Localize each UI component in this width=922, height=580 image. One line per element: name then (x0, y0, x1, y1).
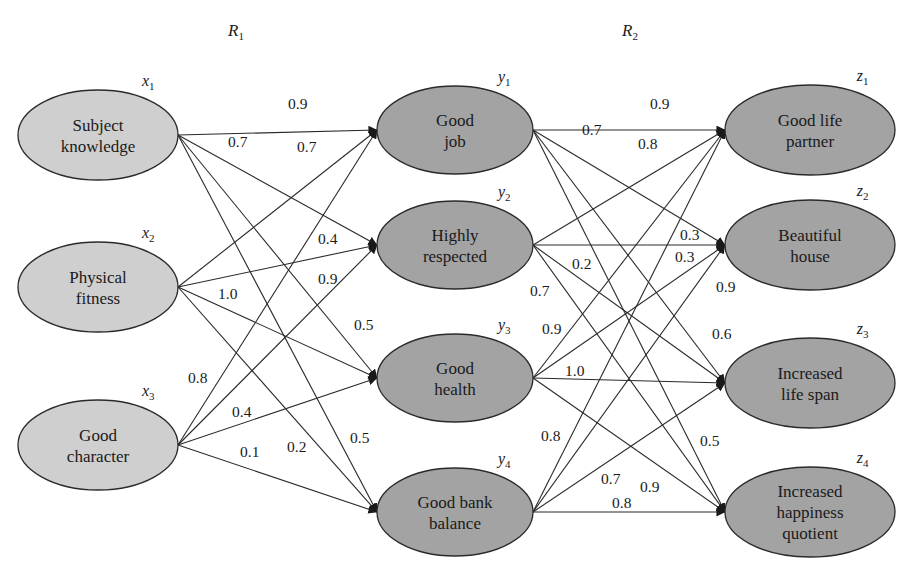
node-variable: x1 (141, 72, 155, 92)
node-label: job (443, 132, 466, 151)
node-label: Good (436, 359, 474, 378)
relation-label-R2: R2 (621, 21, 638, 42)
weight-label-x3-y1: 0.8 (188, 369, 208, 386)
node-label: Subject (73, 116, 124, 135)
node-variable: x3 (141, 382, 155, 402)
node-ellipse (377, 86, 533, 174)
node-label: knowledge (61, 137, 136, 156)
edge-x1-y3 (178, 135, 377, 378)
weight-label-x2-y3: 1.0 (218, 285, 238, 302)
node-ellipse (18, 400, 178, 490)
node-label: Physical (69, 268, 127, 287)
node-label: house (790, 247, 830, 266)
weight-label-y2-z2: 0.3 (680, 226, 700, 243)
weight-label-y4-z2: 0.9 (716, 278, 736, 295)
node-ellipse (377, 201, 533, 289)
weight-label: 0.6 (712, 325, 732, 342)
weight-label-y2-z1: 0.8 (638, 135, 658, 152)
nodes-layer: Subjectknowledgex1Physicalfitnessx2Goodc… (18, 67, 895, 557)
weight-label-y2-z4: 0.7 (530, 282, 550, 299)
node-x3: Goodcharacterx3 (18, 382, 178, 490)
node-label: respected (423, 247, 488, 266)
node-variable: z3 (856, 320, 869, 340)
node-ellipse (377, 334, 533, 422)
node-label: quotient (782, 524, 838, 543)
node-label: happiness (776, 503, 843, 522)
node-label: Good (436, 111, 474, 130)
weight-label-y3-z4: 0.5 (700, 432, 720, 449)
node-label: Increased (777, 482, 843, 501)
weight-label: 0.5 (350, 429, 370, 446)
node-ellipse (18, 90, 178, 180)
edge-x1-y2 (178, 135, 377, 245)
relation-labels-layer: R1R2 (227, 21, 638, 42)
node-variable: y1 (496, 68, 511, 88)
node-y4: Good bankbalancey4 (377, 450, 533, 556)
node-label: Highly (431, 226, 479, 245)
weight-label-x3-y4: 0.1 (240, 443, 259, 460)
node-z2: Beautifulhousez2 (725, 182, 895, 290)
node-label: Good life (778, 111, 843, 130)
node-variable: y3 (496, 316, 511, 336)
edge-y2-z3 (533, 245, 725, 383)
node-ellipse (725, 85, 895, 175)
weight-label-y4-z3: 0.7 (601, 470, 621, 487)
weight-label-y2-z3: 0.2 (572, 255, 591, 272)
node-y3: Goodhealthy3 (377, 316, 533, 422)
node-x2: Physicalfitnessx2 (18, 224, 178, 332)
weight-label-x2-y4: 0.5 (354, 316, 374, 333)
node-y1: Goodjoby1 (377, 68, 533, 174)
edge-x3-y3 (178, 378, 377, 445)
relation-label-R1: R1 (227, 21, 244, 42)
node-ellipse (18, 242, 178, 332)
node-y2: Highlyrespectedy2 (377, 183, 533, 289)
weight-label: 0.9 (640, 478, 660, 495)
edge-y3-z4 (533, 378, 725, 512)
node-ellipse (725, 200, 895, 290)
node-label: balance (429, 514, 481, 533)
node-variable: y4 (496, 450, 511, 470)
weight-label: 0.2 (287, 438, 306, 455)
edge-x1-y1 (178, 130, 377, 135)
weight-label-y3-z1: 0.9 (542, 320, 562, 337)
node-label: Beautiful (778, 226, 842, 245)
weight-label-y3-z3: 1.0 (565, 362, 585, 379)
edge-x2-y3 (178, 287, 377, 378)
node-z3: Increasedlife spanz3 (725, 320, 895, 428)
node-variable: x2 (141, 224, 155, 244)
node-label: Increased (777, 364, 843, 383)
weight-label-x2-y2: 0.4 (318, 230, 338, 247)
node-label: Good (79, 426, 117, 445)
node-label: life span (781, 385, 840, 404)
weight-label-x2-y1: 0.7 (297, 138, 317, 155)
node-ellipse (377, 468, 533, 556)
weight-label-y1-z2: 0.7 (582, 121, 602, 138)
weight-label-y4-z1: 0.8 (541, 427, 561, 444)
node-variable: z1 (856, 67, 869, 87)
weight-label-x1-y1: 0.9 (288, 95, 308, 112)
weight-label-y4-z4: 0.8 (612, 494, 632, 511)
edge-y3-z2 (533, 245, 725, 378)
node-label: fitness (76, 289, 120, 308)
edge-x2-y2 (178, 245, 377, 287)
node-variable: y2 (496, 183, 511, 203)
node-label: character (67, 447, 130, 466)
node-variable: z2 (856, 182, 869, 202)
edge-y4-z3 (533, 383, 725, 512)
weight-label-x3-y3: 0.4 (232, 403, 252, 420)
edges-layer (178, 130, 725, 512)
node-label: partner (786, 132, 834, 151)
node-variable: z4 (856, 449, 869, 469)
weight-label-x1-y2: 0.7 (228, 133, 248, 150)
node-label: health (434, 380, 476, 399)
fuzzy-relation-diagram: Subjectknowledgex1Physicalfitnessx2Goodc… (0, 0, 922, 580)
weight-label-y1-z1: 0.9 (650, 95, 670, 112)
node-z4: Increasedhappinessquotientz4 (725, 449, 895, 557)
weight-label-x3-y2: 0.9 (318, 270, 338, 287)
weight-label-y3-z2: 0.3 (675, 248, 695, 265)
edge-x3-y1 (178, 130, 377, 445)
node-label: Good bank (417, 493, 493, 512)
node-ellipse (725, 338, 895, 428)
node-z1: Good lifepartnerz1 (725, 67, 895, 175)
edge-x3-y2 (178, 245, 377, 445)
